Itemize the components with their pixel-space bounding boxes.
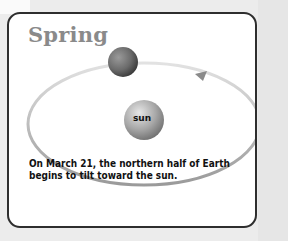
orbit-diagram — [9, 14, 255, 226]
caption-line-2: begins to tilt toward the sun. — [29, 170, 223, 182]
caption: On March 21, the northern half of Earth … — [29, 158, 223, 182]
background-strip-right — [258, 0, 288, 241]
sun-label: sun — [133, 113, 151, 123]
orbit-direction-arrow-icon — [195, 71, 207, 81]
earth — [108, 47, 138, 77]
caption-line-1: On March 21, the northern half of Earth — [29, 158, 223, 170]
season-card: Spring — [7, 12, 257, 228]
